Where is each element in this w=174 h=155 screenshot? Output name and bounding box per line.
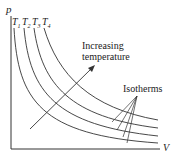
pointer-line [127,96,137,143]
temperature-label: temperature [82,52,130,62]
increasing-temperature-arrow [30,68,92,129]
isotherms-label: Isotherms [123,84,162,94]
pointer-line [112,96,137,122]
isotherm-label-t3: T3 [32,17,41,29]
isotherm-label-t1: T1 [12,17,21,29]
isotherm-label-t2: T2 [22,17,31,29]
y-axis-label: p [6,4,12,15]
isotherm-label-t4: T4 [42,17,51,29]
increasing-label: Increasing [82,41,124,51]
x-axis-label: V [163,143,169,153]
